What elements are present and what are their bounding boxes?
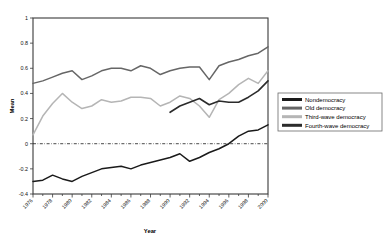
x-tick-label: 1986	[119, 197, 131, 209]
legend-label-0: Nondemocracy	[305, 97, 345, 103]
x-tick-label: 1982	[80, 197, 92, 209]
x-tick-label: 1994	[198, 197, 210, 209]
y-tick-label: -0.2	[19, 166, 28, 172]
x-tick-label: 1990	[158, 197, 170, 209]
x-axis-ticks: 1976197819801982198419861988199019921994…	[21, 194, 268, 210]
x-axis-title: Year	[144, 228, 157, 234]
y-tick-label: 0.2	[21, 116, 29, 122]
y-axis-title: Mean	[9, 98, 15, 113]
y-tick-label: 0.6	[21, 65, 29, 71]
legend: NondemocracyOld democracyThird-wave demo…	[278, 93, 382, 131]
legend-label-2: Third-wave democracy	[305, 114, 366, 120]
line-chart: -0.4-0.200.20.40.60.81 19761978198019821…	[0, 0, 386, 246]
x-tick-label: 1998	[237, 197, 249, 209]
y-axis-ticks: -0.4-0.200.20.40.60.81	[19, 15, 33, 197]
y-tick-label: 0.8	[21, 40, 29, 46]
y-tick-label: 1	[25, 15, 28, 21]
y-tick-label: -0.4	[19, 191, 28, 197]
x-tick-label: 1976	[21, 197, 33, 209]
legend-label-3: Fourth-wave democracy	[305, 123, 369, 129]
chart-container: -0.4-0.200.20.40.60.81 19761978198019821…	[0, 0, 386, 246]
legend-label-1: Old democracy	[305, 105, 345, 111]
x-tick-label: 1980	[60, 197, 72, 209]
x-tick-label: 1988	[139, 197, 151, 209]
x-tick-label: 1984	[100, 197, 112, 209]
y-tick-label: 0.4	[21, 90, 29, 96]
x-tick-label: 1996	[217, 197, 229, 209]
plot-area-frame	[33, 18, 268, 194]
y-tick-label: 0	[25, 141, 28, 147]
x-tick-label: 1978	[41, 197, 53, 209]
x-tick-label: 2000	[256, 197, 268, 209]
plot-border	[33, 18, 268, 194]
x-tick-label: 1992	[178, 197, 190, 209]
